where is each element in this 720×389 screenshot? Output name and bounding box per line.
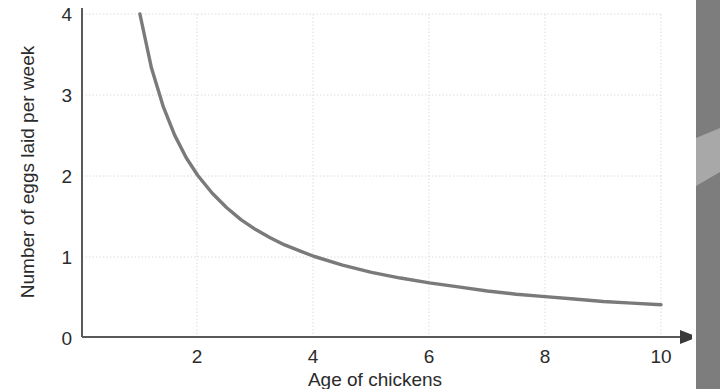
x-tick-label-8: 8 — [540, 346, 551, 367]
y-tick-label-2: 2 — [61, 166, 72, 187]
y-axis-title: Number of eggs laid per week — [17, 45, 38, 298]
page-edge-strip-graphic — [692, 0, 720, 389]
y-tick-label-3: 3 — [61, 85, 72, 106]
strip-margin — [692, 0, 696, 389]
x-tick-label-10: 10 — [650, 346, 671, 367]
x-tick-label-6: 6 — [424, 346, 435, 367]
page-edge-strip — [692, 0, 720, 389]
x-tick-label-4: 4 — [308, 346, 319, 367]
y-tick-label-0: 0 — [61, 328, 72, 349]
y-tick-label-4: 4 — [61, 4, 72, 25]
data-curve-eggs-per-week — [140, 14, 661, 305]
chart-figure: 4 3 2 1 0 2 4 6 8 10 Age of chickens Num… — [0, 0, 720, 389]
strip-base — [696, 0, 720, 389]
y-tick-label-1: 1 — [61, 247, 72, 268]
x-tick-label-2: 2 — [192, 346, 203, 367]
horizontal-gridlines — [82, 14, 661, 257]
chart-plot-area: 4 3 2 1 0 2 4 6 8 10 Age of chickens Num… — [0, 0, 720, 389]
x-axis-title: Age of chickens — [308, 369, 442, 389]
